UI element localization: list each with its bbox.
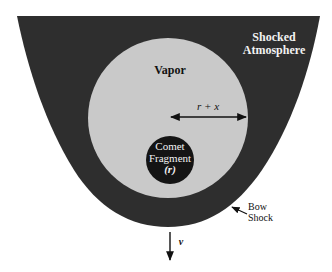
comet-fragment-label-line1: Comet	[140, 141, 200, 153]
vapor-label: Vapor	[148, 64, 192, 77]
bow-shock-label-line2: Shock	[248, 213, 284, 224]
shocked-atmosphere-label-line1: Shocked	[238, 31, 310, 44]
bow-shock-label-line1: Bow	[248, 202, 284, 213]
shocked-atmosphere-label-line2: Atmosphere	[238, 44, 310, 57]
bow-shock-label: Bow Shock	[248, 202, 284, 223]
comet-entry-diagram: Shocked Atmosphere Vapor r + x Comet Fra…	[0, 0, 332, 272]
comet-fragment-label: Comet Fragment (r)	[140, 141, 200, 176]
radius-arrow-label: r + x	[188, 101, 228, 113]
comet-fragment-label-line3: (r)	[140, 164, 200, 176]
velocity-label: v	[176, 237, 186, 248]
bow-shock-pointer	[232, 207, 247, 214]
shocked-atmosphere-label: Shocked Atmosphere	[238, 31, 310, 56]
